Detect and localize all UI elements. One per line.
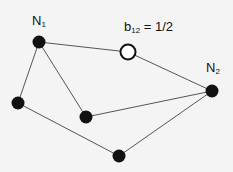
- nodes: [12, 36, 219, 163]
- edge-n1-left: [18, 42, 39, 103]
- label-n1: N1: [32, 14, 46, 29]
- label-n2: N2: [206, 61, 220, 76]
- edge-n1-b12: [39, 42, 128, 52]
- graph-diagram: N1 b12 = 1/2 N2: [0, 0, 233, 172]
- node-middle: [80, 111, 93, 124]
- node-n1: [33, 36, 46, 49]
- edge-left-bottom: [18, 103, 119, 156]
- node-left: [12, 97, 25, 110]
- node-b12: [121, 45, 136, 60]
- edge-b12-n2: [128, 52, 212, 91]
- node-n2: [206, 85, 219, 98]
- edge-n1-middle: [39, 42, 86, 117]
- label-b12: b12 = 1/2: [124, 20, 173, 35]
- node-bottom: [113, 150, 126, 163]
- edges: [18, 42, 212, 156]
